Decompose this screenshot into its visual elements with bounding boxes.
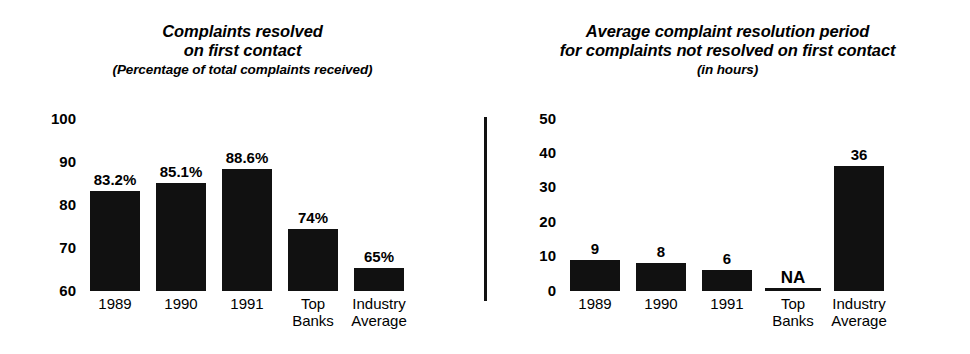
bar-1990 [636,263,686,291]
bar-1990 [156,183,206,291]
x-axis-right: 1989 1990 1991 Top Banks Industry Averag… [564,296,950,350]
bar-value-1991: 88.6% [216,150,278,165]
x-category-1991: 1991 [216,296,278,313]
bar-value-1990: 8 [630,244,692,259]
bar-1989 [90,191,140,291]
bar-industry-average [834,166,884,291]
bar-slot-top-banks: NA [762,118,824,291]
y-tick-label-0: 0 [520,283,556,298]
bar-value-1989: 83.2% [84,172,146,187]
bar-1991 [702,270,752,291]
bar-value-1990: 85.1% [150,164,212,179]
bar-value-industry-average: 36 [828,147,890,162]
bar-value-industry-average: 65% [348,249,410,264]
plot-area-left: 100 90 80 70 60 83.2% 85.1% 88.6% [40,110,470,350]
x-category-1990: 1990 [630,296,692,313]
x-category-top-banks: Top Banks [762,296,824,330]
y-axis-right: 50 40 30 20 10 0 [520,110,556,290]
bar-1991 [222,169,272,291]
plot-area-right: 50 40 30 20 10 0 9 8 6 [520,110,950,350]
chart-subtitle-right: (in hours) [485,62,970,78]
x-axis-left: 1989 1990 1991 Top Banks Industry Averag… [84,296,470,350]
x-category-1991: 1991 [696,296,758,313]
chart-title-left-line2: on first contact [0,41,485,60]
chart-panel-right: Average complaint resolution period for … [485,0,970,354]
chart-title-left: Complaints resolved on first contact (Pe… [0,22,485,78]
y-tick-label-100: 100 [40,111,76,126]
chart-title-right-line2: for complaints not resolved on first con… [485,41,970,60]
y-tick-label-20: 20 [520,214,556,229]
bar-value-1989: 9 [564,241,626,256]
x-category-1989: 1989 [564,296,626,313]
bar-1989 [570,260,620,291]
y-tick-label-50: 50 [520,111,556,126]
chart-title-right: Average complaint resolution period for … [485,22,970,78]
bar-slot-1989: 9 [564,118,626,291]
bar-group-left: 83.2% 85.1% 88.6% 74% 65% [84,118,470,291]
x-category-1989: 1989 [84,296,146,313]
chart-title-right-line1: Average complaint resolution period [485,22,970,41]
y-tick-label-90: 90 [40,154,76,169]
chart-subtitle-left: (Percentage of total complaints received… [0,62,485,78]
y-tick-label-30: 30 [520,179,556,194]
y-tick-label-40: 40 [520,145,556,160]
bar-slot-1991: 6 [696,118,758,291]
bar-industry-average [354,268,404,291]
bar-slot-top-banks: 74% [282,118,344,291]
two-panel-bar-chart-figure: Complaints resolved on first contact (Pe… [0,0,970,354]
bar-value-top-banks: 74% [282,210,344,225]
y-tick-label-70: 70 [40,240,76,255]
y-tick-label-80: 80 [40,197,76,212]
x-category-industry-average: Industry Average [348,296,410,330]
bar-slot-1990: 85.1% [150,118,212,291]
bar-value-top-banks-na: NA [764,269,822,286]
bar-slot-1991: 88.6% [216,118,278,291]
y-tick-label-60: 60 [40,283,76,298]
chart-panel-left: Complaints resolved on first contact (Pe… [0,0,485,354]
bar-slot-industry-average: 65% [348,118,410,291]
bar-slot-industry-average: 36 [828,118,890,291]
chart-title-left-line1: Complaints resolved [0,22,485,41]
bar-slot-1990: 8 [630,118,692,291]
y-axis-left: 100 90 80 70 60 [40,110,76,290]
bar-top-banks [288,229,338,291]
bar-value-1991: 6 [696,251,758,266]
x-category-1990: 1990 [150,296,212,313]
x-category-top-banks: Top Banks [282,296,344,330]
y-tick-label-10: 10 [520,248,556,263]
bar-group-right: 9 8 6 NA 36 [564,118,950,291]
bar-slot-1989: 83.2% [84,118,146,291]
x-category-industry-average: Industry Average [828,296,890,330]
bar-top-banks-na-rule [765,288,821,291]
